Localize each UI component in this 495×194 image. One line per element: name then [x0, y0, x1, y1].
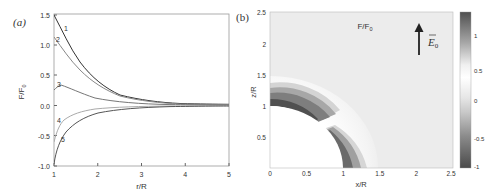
panel-a-xaxis: 1 2 3 4 5 r/R	[52, 163, 231, 191]
xtick-label: 2	[96, 171, 100, 178]
panel-b-xlabel: x/R	[355, 180, 367, 189]
curve-label-3: 3	[57, 81, 61, 88]
xtick-label: 1	[52, 171, 56, 178]
curve-label-2: 2	[56, 36, 60, 43]
figure: (a) 1.5 1.0 0.5 0.0 -0.5 -1.0 F/F0	[0, 0, 495, 194]
ytick-label: 0.0	[40, 103, 50, 110]
panel-a-label: (a)	[13, 16, 26, 29]
panel-a-xlabel: r/R	[136, 182, 147, 191]
curve-1	[54, 15, 229, 104]
ytick-label: 0.5	[257, 134, 266, 141]
xtick-label: 0	[268, 170, 272, 177]
curve-5	[54, 106, 229, 164]
ytick-label: 1	[262, 103, 266, 110]
panel-a-frame	[54, 14, 229, 166]
xtick-label: 4	[183, 171, 187, 178]
xtick-label: 2.5	[446, 170, 455, 177]
panel-a-curve-labels: 1 2 3 4 5	[56, 25, 68, 143]
cbar-tick: 0.5	[474, 68, 483, 74]
svg-text:F/F0: F/F0	[17, 84, 27, 99]
ytick-label: 2	[262, 41, 266, 48]
ytick-label: 0.5	[40, 72, 50, 79]
xtick-label: 5	[227, 171, 231, 178]
panel-b-yaxis: 2.5 2 1.5 1 0.5	[257, 9, 266, 141]
panel-a-ylabel: F/F0	[17, 84, 27, 99]
cbar-tick: -0.5	[474, 136, 485, 142]
panel-a: (a) 1.5 1.0 0.5 0.0 -0.5 -1.0 F/F0	[13, 12, 231, 191]
panel-b-label: (b)	[236, 11, 249, 24]
panel-b-xaxis: 0 0.5 1 1.5 2 2.5 x/R	[268, 170, 456, 189]
ytick-label: -1.0	[38, 163, 50, 170]
panel-a-curves	[54, 15, 229, 164]
panel-b-ylabel: z/R	[249, 86, 258, 98]
ytick-label: -0.5	[38, 133, 50, 140]
cbar-tick: 0	[474, 98, 478, 104]
colorbar-ticks: 1 0.5 0 -0.5 -1	[474, 33, 485, 170]
xtick-label: 0.5	[302, 170, 311, 177]
curve-label-4: 4	[57, 117, 61, 124]
ytick-label: 1.0	[40, 42, 50, 49]
curve-label-5: 5	[61, 136, 65, 143]
heatmap	[162, 12, 453, 194]
curve-2	[54, 37, 229, 105]
svg-text:z/R: z/R	[249, 86, 258, 98]
xtick-label: 3	[140, 171, 144, 178]
xtick-label: 1	[341, 170, 345, 177]
xtick-label: 2	[415, 170, 419, 177]
curve-label-1: 1	[64, 25, 68, 32]
cbar-tick: -1	[474, 164, 480, 170]
curve-3	[54, 85, 229, 105]
ytick-label: 2.5	[257, 9, 266, 16]
curve-4	[54, 106, 229, 142]
xtick-label: 1.5	[375, 170, 384, 177]
ytick-label: 1.5	[257, 72, 266, 79]
ytick-label: 1.5	[40, 12, 50, 19]
cbar-tick: 1	[474, 33, 478, 39]
colorbar: 1 0.5 0 -0.5 -1	[460, 12, 485, 170]
